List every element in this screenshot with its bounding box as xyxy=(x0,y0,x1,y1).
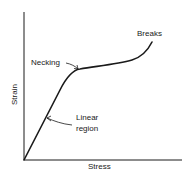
necking-label: Necking xyxy=(31,59,60,67)
necking-arrow xyxy=(66,63,78,69)
linear-region-label-line1: Linear xyxy=(76,114,98,122)
linear-region-label-line2: region xyxy=(76,125,98,133)
y-axis-label: Strain xyxy=(11,84,19,105)
linear-region-arrow xyxy=(47,118,72,125)
stress-strain-diagram: Strain Stress Necking Breaks Linear regi… xyxy=(0,0,190,178)
x-axis-label: Stress xyxy=(88,163,111,171)
diagram-canvas xyxy=(0,0,190,178)
breaks-label: Breaks xyxy=(137,30,162,38)
